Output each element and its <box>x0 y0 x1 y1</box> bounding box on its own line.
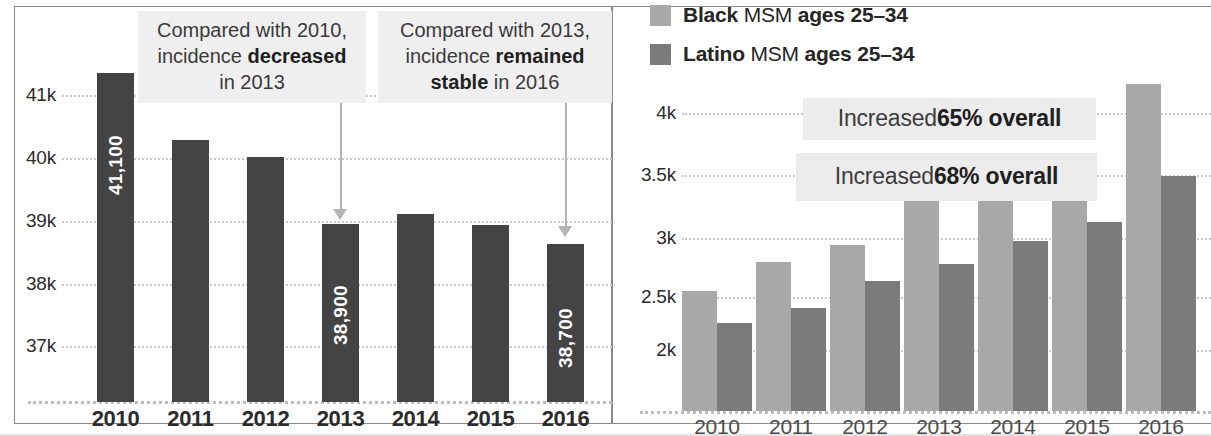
left-xtick-2012: 2012 <box>232 406 299 432</box>
bar-black-2010[interactable] <box>682 291 717 411</box>
legend-black-msm: MSM <box>738 3 798 26</box>
bar-black-2012[interactable] <box>830 245 865 411</box>
legend-label-black-msm: Black MSM ages 25–34 <box>683 3 908 27</box>
callout-2-line2: incidence remained <box>384 43 606 69</box>
bar-latino-2016[interactable] <box>1161 176 1196 411</box>
callout-1-line1: Compared with 2010, <box>144 17 360 43</box>
callout-1-line2-bold: decreased <box>248 45 347 67</box>
right-x-axis <box>640 411 1211 414</box>
callout-increased-68: Increased 68% overall <box>796 153 1097 201</box>
bar-2014[interactable] <box>397 214 434 402</box>
right-ytick-2k: 2k <box>620 339 676 361</box>
callout-1-line2: incidence decreased <box>144 43 360 69</box>
callout-2-line3: stable in 2016 <box>384 69 606 95</box>
left-ytick-40k: 40k <box>0 147 56 169</box>
callout-stable-2016: Compared with 2013, incidence remained s… <box>378 11 612 103</box>
arrow-head-2013-icon <box>333 209 347 220</box>
left-ytick-41k: 41k <box>0 84 56 106</box>
left-xtick-2010: 2010 <box>82 406 149 432</box>
left-ytick-37k: 37k <box>0 335 56 357</box>
callout-68-bold: 68% overall <box>934 164 1058 189</box>
right-xtick-2012: 2012 <box>824 415 906 436</box>
right-xtick-2010: 2010 <box>676 415 758 436</box>
legend-swatch-black-msm-icon <box>650 5 671 26</box>
legend-black-name: Black <box>683 3 738 26</box>
left-ytick-38k: 38k <box>0 273 56 295</box>
left-xtick-2016: 2016 <box>532 406 599 432</box>
bar-2011[interactable] <box>172 140 209 402</box>
bar-label-2016: 38,700 <box>555 308 577 368</box>
gridline-39k <box>62 221 612 223</box>
right-xtick-2015: 2015 <box>1046 415 1128 436</box>
legend-swatch-latino-msm-icon <box>650 44 671 65</box>
callout-65-plain: Increased <box>838 106 937 131</box>
bar-label-2013: 38,900 <box>330 285 352 345</box>
bar-latino-2015[interactable] <box>1087 222 1122 411</box>
right-xtick-2011: 2011 <box>750 415 832 436</box>
bar-latino-2011[interactable] <box>791 308 826 411</box>
callout-65-bold: 65% overall <box>937 106 1061 131</box>
left-plot-area: 41k 40k 39k 38k 37k 41,100 38,900 38,700… <box>0 0 620 436</box>
screenshot-root: 41k 40k 39k 38k 37k 41,100 38,900 38,700… <box>0 0 1211 436</box>
callout-1-line3: in 2013 <box>144 69 360 95</box>
bar-black-2011[interactable] <box>756 262 791 411</box>
right-xtick-2016: 2016 <box>1120 415 1202 436</box>
right-xtick-2013: 2013 <box>898 415 980 436</box>
callout-increased-65: Increased 65% overall <box>803 98 1096 140</box>
legend-black-age: ages 25–34 <box>798 3 908 26</box>
bar-black-2016[interactable] <box>1126 84 1161 411</box>
left-xtick-2015: 2015 <box>457 406 524 432</box>
legend-item-latino-msm[interactable]: Latino MSM ages 25–34 <box>650 42 915 66</box>
right-ytick-2-5k: 2.5k <box>620 286 676 308</box>
arrow-shaft-2013 <box>340 103 342 210</box>
bar-2010[interactable] <box>97 73 134 402</box>
bar-latino-2012[interactable] <box>865 281 900 411</box>
callout-68-plain: Increased <box>835 164 934 189</box>
legend-item-black-msm[interactable]: Black MSM ages 25–34 <box>650 3 908 27</box>
callout-2-line3-plain: in 2016 <box>488 71 559 93</box>
legend-label-latino-msm: Latino MSM ages 25–34 <box>683 42 915 66</box>
right-xtick-2014: 2014 <box>972 415 1054 436</box>
right-plot-area: Black MSM ages 25–34 Latino MSM ages 25–… <box>620 0 1211 436</box>
callout-1-line2-plain: incidence <box>157 45 247 67</box>
arrow-shaft-2016 <box>565 103 567 227</box>
left-chart-panel: 41k 40k 39k 38k 37k 41,100 38,900 38,700… <box>0 0 620 436</box>
bar-latino-2013[interactable] <box>939 264 974 411</box>
bar-black-2013[interactable] <box>904 187 939 411</box>
right-ytick-3k: 3k <box>620 227 676 249</box>
callout-2-line2-plain: incidence <box>406 45 496 67</box>
legend-latino-name: Latino <box>683 42 745 65</box>
right-ytick-3-5k: 3.5k <box>620 164 676 186</box>
legend-latino-age: ages 25–34 <box>804 42 914 65</box>
callout-2-line3-bold: stable <box>431 71 489 93</box>
bar-2015[interactable] <box>472 225 509 402</box>
callout-2-line1: Compared with 2013, <box>384 17 606 43</box>
callout-2-line2-bold: remained <box>496 45 585 67</box>
right-chart-panel: Black MSM ages 25–34 Latino MSM ages 25–… <box>620 0 1211 436</box>
bar-label-2010: 41,100 <box>105 135 127 195</box>
left-xtick-2011: 2011 <box>157 406 224 432</box>
left-ytick-39k: 39k <box>0 210 56 232</box>
bar-latino-2014[interactable] <box>1013 241 1048 411</box>
bar-black-2015[interactable] <box>1052 186 1087 411</box>
right-ytick-4k: 4k <box>620 102 676 124</box>
callout-decreased-2013: Compared with 2010, incidence decreased … <box>138 11 366 103</box>
gridline-40k <box>62 158 612 160</box>
left-xtick-2014: 2014 <box>382 406 449 432</box>
left-xtick-2013: 2013 <box>307 406 374 432</box>
bar-black-2014[interactable] <box>978 180 1013 411</box>
bar-2012[interactable] <box>247 157 284 402</box>
bar-latino-2010[interactable] <box>717 323 752 411</box>
arrow-head-2016-icon <box>558 226 572 237</box>
legend-latino-msm: MSM <box>745 42 805 65</box>
